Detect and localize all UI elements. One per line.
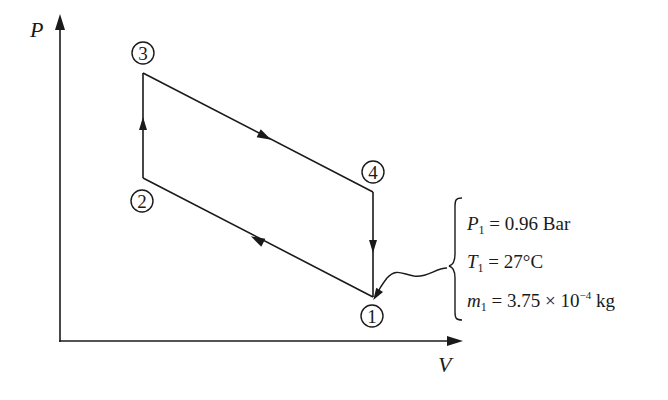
axes: [59, 26, 452, 342]
arrow-down-right-icon: [257, 129, 274, 143]
curly-brace: [449, 198, 462, 320]
wavy-pointer: [379, 268, 447, 290]
v-axis-label: V: [438, 352, 454, 377]
process-3-4: [143, 73, 373, 192]
p-axis-arrowhead-icon: [55, 14, 65, 30]
arrow-down-icon: [369, 240, 377, 253]
p-axis-label: P: [29, 17, 43, 42]
v-axis-arrowhead-icon: [447, 336, 463, 346]
condition-pressure: P1 = 0.96 Bar: [467, 214, 570, 236]
condition-temperature: T1 = 27°C: [467, 252, 543, 274]
pv-diagram: P V 3 2 4 1: [0, 0, 668, 400]
svg-text:4: 4: [368, 162, 378, 183]
arrow-up-icon: [139, 117, 147, 130]
svg-text:2: 2: [137, 191, 147, 212]
svg-text:1: 1: [367, 306, 377, 327]
pointer-arrowhead-icon: [370, 288, 383, 302]
condition-mass: m1 = 3.75 × 10−4 kg: [467, 290, 615, 313]
state-3: 3: [132, 42, 154, 64]
process-1-2: [143, 178, 373, 297]
cycle-path: [143, 73, 373, 297]
state-2: 2: [131, 190, 153, 212]
svg-text:3: 3: [138, 43, 148, 64]
state-1: 1: [361, 305, 383, 327]
state-4: 4: [362, 161, 384, 183]
